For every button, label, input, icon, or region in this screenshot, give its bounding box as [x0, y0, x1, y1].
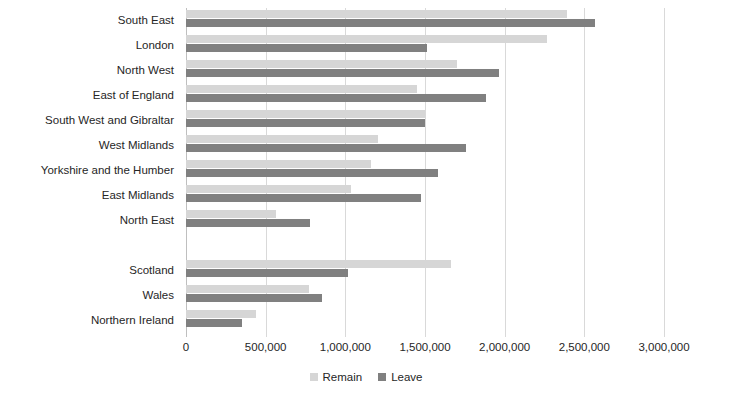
bar-row	[186, 33, 664, 58]
x-tick-label: 0	[183, 341, 189, 353]
x-tick-label: 2,500,000	[559, 341, 610, 353]
bar-leave[interactable]	[186, 269, 348, 277]
category-label: West Midlands	[99, 133, 174, 158]
legend-item-leave[interactable]: Leave	[378, 371, 422, 383]
bar-leave[interactable]	[186, 219, 310, 227]
bar-remain[interactable]	[186, 285, 309, 293]
legend-item-remain[interactable]: Remain	[310, 371, 363, 383]
category-label: South West and Gibraltar	[45, 108, 174, 133]
bar-row	[186, 233, 664, 258]
x-tick-label: 3,000,000	[638, 341, 689, 353]
gridline-3000000	[664, 8, 665, 337]
bar-remain[interactable]	[186, 210, 276, 218]
bar-row	[186, 308, 664, 333]
bar-leave[interactable]	[186, 144, 466, 152]
legend-label-remain: Remain	[323, 371, 363, 383]
category-label: Wales	[142, 283, 174, 308]
legend-swatch-leave-icon	[378, 373, 386, 381]
bar-remain[interactable]	[186, 35, 547, 43]
category-label: South East	[118, 8, 174, 33]
bar-remain[interactable]	[186, 185, 351, 193]
bar-remain[interactable]	[186, 160, 371, 168]
bar-leave[interactable]	[186, 44, 427, 52]
bar-row	[186, 8, 664, 33]
bar-remain[interactable]	[186, 135, 378, 143]
bar-row	[186, 158, 664, 183]
bar-remain[interactable]	[186, 10, 567, 18]
category-label: Scotland	[129, 258, 174, 283]
category-label: North West	[117, 58, 174, 83]
category-label: Northern Ireland	[91, 308, 174, 333]
bar-row	[186, 208, 664, 233]
bar-row	[186, 283, 664, 308]
x-tick-label: 500,000	[245, 341, 287, 353]
x-tick-label: 2,000,000	[479, 341, 530, 353]
category-axis: South EastLondonNorth WestEast of Englan…	[0, 8, 180, 337]
bar-chart: South EastLondonNorth WestEast of Englan…	[0, 0, 732, 395]
bar-remain[interactable]	[186, 310, 256, 318]
bar-leave[interactable]	[186, 194, 421, 202]
bar-leave[interactable]	[186, 169, 438, 177]
category-label: North East	[120, 208, 174, 233]
bar-row	[186, 108, 664, 133]
category-label: East of England	[93, 83, 174, 108]
plot-area	[186, 8, 664, 337]
category-label: London	[136, 33, 174, 58]
legend-label-leave: Leave	[391, 371, 422, 383]
x-tick-label: 1,000,000	[320, 341, 371, 353]
category-label: Yorkshire and the Humber	[41, 158, 174, 183]
value-axis: 0500,0001,000,0001,500,0002,000,0002,500…	[0, 337, 732, 357]
category-label: East Midlands	[102, 183, 174, 208]
bar-row	[186, 133, 664, 158]
chart-legend: Remain Leave	[0, 371, 732, 383]
bar-remain[interactable]	[186, 260, 451, 268]
legend-swatch-remain-icon	[310, 373, 318, 381]
bar-row	[186, 258, 664, 283]
bar-leave[interactable]	[186, 119, 425, 127]
bar-row	[186, 58, 664, 83]
bar-leave[interactable]	[186, 294, 322, 302]
bar-leave[interactable]	[186, 319, 242, 327]
bar-remain[interactable]	[186, 85, 417, 93]
bar-row	[186, 183, 664, 208]
bar-row	[186, 83, 664, 108]
bar-remain[interactable]	[186, 60, 457, 68]
bar-leave[interactable]	[186, 69, 499, 77]
bar-leave[interactable]	[186, 94, 486, 102]
x-tick-label: 1,500,000	[399, 341, 450, 353]
bar-remain[interactable]	[186, 110, 425, 118]
bar-leave[interactable]	[186, 19, 595, 27]
